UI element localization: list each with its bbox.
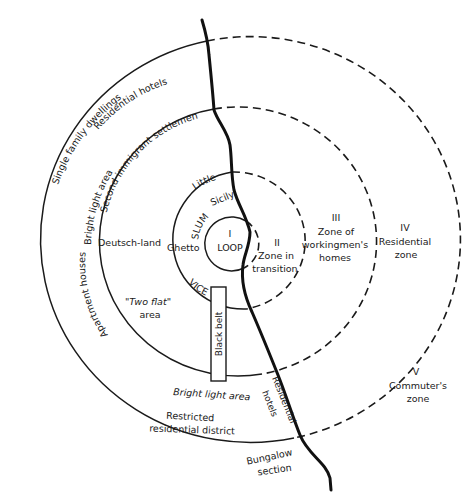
label-zone-4-line1: Residential: [379, 236, 431, 247]
label-zone-1-numeral: I: [229, 228, 232, 239]
label-bright-light-lower: Bright light area: [173, 386, 251, 402]
label-little-sicily: Little: [190, 171, 217, 191]
label-black-belt: Black belt: [214, 311, 224, 356]
label-zone-5-numeral: V: [413, 366, 420, 377]
label-zone-5-line1: Commuter's: [389, 380, 447, 391]
label-zone-3-line1: Zone of: [318, 226, 355, 237]
label-zone-3-numeral: III: [332, 212, 340, 223]
label-zone-1-name: LOOP: [217, 242, 243, 253]
label-bungalow-line2: section: [257, 462, 292, 478]
label-sicily: Sicily: [209, 188, 236, 208]
label-zone-4-numeral: IV: [400, 222, 410, 233]
label-zone-3-line3: homes: [319, 252, 351, 263]
label-zone-4-line2: zone: [395, 249, 418, 260]
label-two-flat-line1: "Two flat": [125, 296, 171, 307]
label-zone-2-line2: transition: [252, 263, 297, 274]
label-two-flat-line2: area: [139, 309, 160, 320]
label-slum: SLUM: [189, 211, 210, 240]
label-zone-5-line2: zone: [407, 393, 430, 404]
label-zone-2-line1: Zone in: [258, 250, 294, 261]
label-restricted-line2: residential district: [149, 423, 235, 437]
label-ghetto: Ghetto: [167, 242, 200, 253]
label-zone-2-numeral: II: [274, 237, 280, 248]
label-zone-3-line2: workingmen's: [302, 239, 368, 250]
label-vice: VICE: [187, 276, 210, 297]
label-deutschland: Deutsch-land: [98, 237, 161, 248]
label-restricted-line1: Restricted: [166, 410, 215, 424]
label-apartment-houses: Apartment houses: [76, 251, 110, 340]
concentric-zone-diagram: Black belt I LOOP II Zone in transition …: [0, 0, 465, 496]
